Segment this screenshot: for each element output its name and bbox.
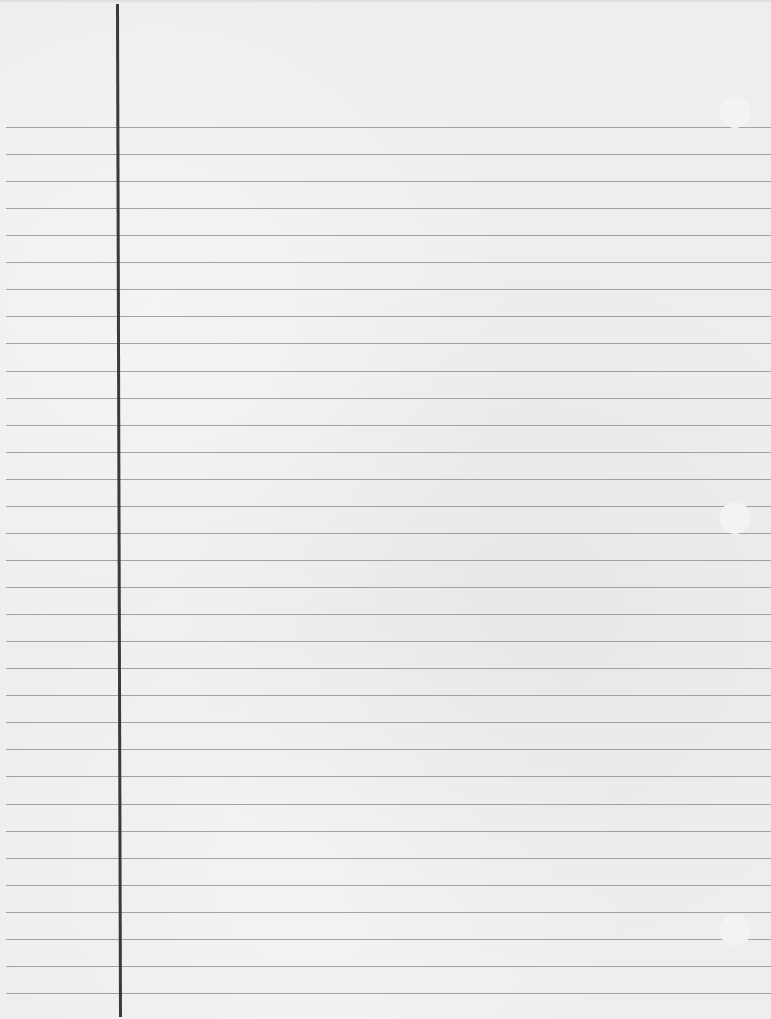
- rule-line: [6, 208, 771, 209]
- rule-line: [6, 154, 771, 155]
- rule-line: [6, 343, 771, 344]
- rule-line: [6, 533, 771, 534]
- rule-line: [6, 587, 771, 588]
- rule-line: [6, 425, 771, 426]
- rule-line: [6, 560, 771, 561]
- paper-top-edge: [0, 0, 771, 3]
- notebook-paper: [0, 0, 771, 1019]
- punch-hole: [719, 502, 751, 534]
- rule-line: [6, 289, 771, 290]
- margin-line: [116, 4, 122, 1017]
- rule-line: [6, 127, 771, 128]
- rule-line: [6, 371, 771, 372]
- rule-line: [6, 316, 771, 317]
- rule-line: [6, 479, 771, 480]
- rule-line: [6, 181, 771, 182]
- punch-hole: [719, 96, 751, 128]
- punch-hole: [719, 914, 751, 946]
- rule-line: [6, 262, 771, 263]
- rule-line: [6, 506, 771, 507]
- rule-line: [6, 452, 771, 453]
- rule-line: [6, 398, 771, 399]
- rule-line: [6, 235, 771, 236]
